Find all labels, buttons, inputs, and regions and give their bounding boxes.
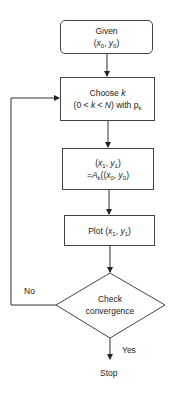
check-convergence-text: Check convergence [70, 293, 150, 317]
plot-node: Plot (x1, y1) [64, 215, 155, 246]
check-line-1: Check [70, 293, 150, 305]
start-node-line-1: Given [95, 25, 117, 37]
yes-label: Yes [122, 345, 136, 355]
start-node-line-2: (x0, y0) [94, 37, 120, 49]
apply-map-line-1: (x1, y1) [95, 157, 121, 169]
flowchart-connectors [0, 0, 173, 395]
apply-map-line-2: =Ak((x0, y0) [87, 169, 129, 181]
check-line-2: convergence [70, 305, 150, 317]
apply-map-node: (x1, y1) =Ak((x0, y0) [62, 148, 154, 190]
choose-k-node: Choose k (0 < k < N) with pk [60, 77, 155, 121]
choose-k-line-1: Choose k [90, 87, 126, 99]
start-node: Given (x0, y0) [60, 20, 153, 54]
no-label: No [24, 286, 35, 296]
stop-label: Stop [100, 368, 118, 378]
choose-k-line-2: (0 < k < N) with pk [74, 99, 142, 111]
plot-line: Plot (x1, y1) [88, 225, 131, 237]
